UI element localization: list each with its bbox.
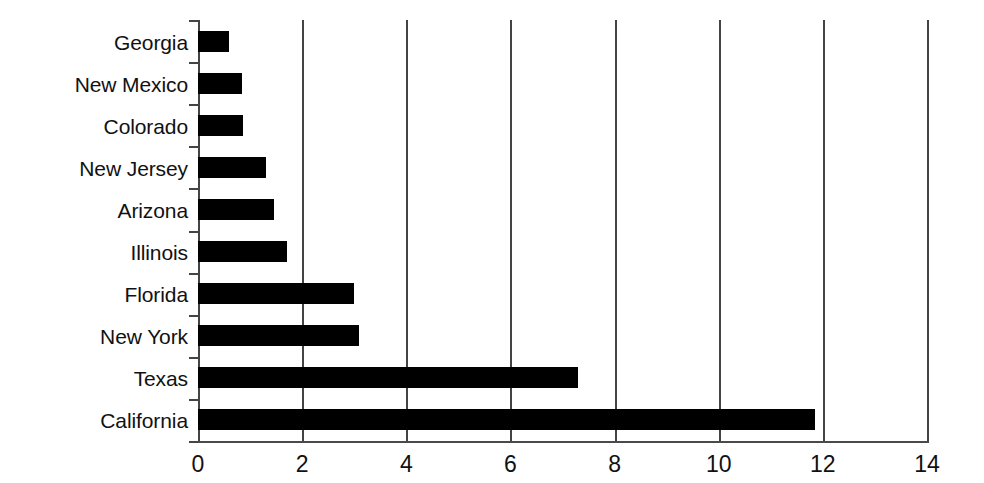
- category-tick: [189, 62, 198, 64]
- bar: [198, 31, 229, 52]
- category-tick: [189, 357, 198, 359]
- category-label: New York: [0, 326, 188, 347]
- category-label: Illinois: [0, 242, 188, 263]
- x-tick-label: 10: [706, 450, 732, 478]
- category-label: Georgia: [0, 32, 188, 53]
- category-label: New Jersey: [0, 158, 188, 179]
- plot-area: [198, 20, 927, 441]
- category-label: California: [0, 410, 188, 431]
- x-tick-label: 4: [400, 450, 413, 478]
- bar: [198, 73, 242, 94]
- category-tick: [189, 441, 198, 443]
- x-axis-tick-labels: 02468101214: [0, 450, 984, 483]
- bar: [198, 409, 815, 430]
- bar: [198, 157, 266, 178]
- category-tick: [189, 146, 198, 148]
- category-tick: [189, 231, 198, 233]
- category-label: Arizona: [0, 200, 188, 221]
- bar: [198, 367, 578, 388]
- gridline: [719, 20, 721, 441]
- x-tick-label: 2: [296, 450, 309, 478]
- bar-chart: GeorgiaNew MexicoColoradoNew JerseyArizo…: [0, 0, 984, 483]
- category-tick: [189, 399, 198, 401]
- bar: [198, 283, 354, 304]
- category-axis-labels: GeorgiaNew MexicoColoradoNew JerseyArizo…: [0, 20, 188, 441]
- x-tick-label: 8: [608, 450, 621, 478]
- category-tick: [189, 104, 198, 106]
- bar: [198, 199, 274, 220]
- bar: [198, 115, 243, 136]
- gridline: [927, 20, 929, 441]
- category-tick: [189, 273, 198, 275]
- category-label: Florida: [0, 284, 188, 305]
- x-tick-label: 0: [192, 450, 205, 478]
- category-label: Texas: [0, 368, 188, 389]
- category-tick: [189, 20, 198, 22]
- category-tick: [189, 188, 198, 190]
- category-label: Colorado: [0, 116, 188, 137]
- bar: [198, 241, 287, 262]
- x-tick-label: 6: [504, 450, 517, 478]
- x-tick-label: 12: [810, 450, 836, 478]
- category-label: New Mexico: [0, 74, 188, 95]
- bar: [198, 325, 359, 346]
- gridline: [615, 20, 617, 441]
- x-axis-line: [198, 441, 929, 443]
- x-tick-label: 14: [914, 450, 940, 478]
- gridline: [823, 20, 825, 441]
- category-tick: [189, 315, 198, 317]
